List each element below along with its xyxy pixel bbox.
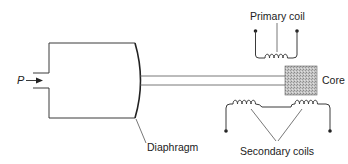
- pressure-label: P: [17, 74, 25, 86]
- primary-coil-label: Primary coil: [250, 10, 305, 22]
- diaphragm-leader-line: [136, 119, 146, 143]
- primary-coil: [254, 29, 299, 58]
- lvdt-pressure-diagram: P Diaphragm Core Primary coil: [0, 0, 348, 164]
- core-label: Core: [322, 74, 345, 86]
- core: [285, 66, 317, 95]
- secondary-coil-right: [291, 100, 332, 133]
- secondary-coils-leader-lines: [251, 109, 302, 141]
- rod: [140, 76, 285, 85]
- secondary-coil-left: [224, 100, 291, 133]
- pressure-arrow-icon: [26, 78, 43, 84]
- diaphragm-label: Diaphragm: [147, 141, 199, 153]
- secondary-terminal-right-icon: [328, 129, 332, 133]
- secondary-coils-label: Secondary coils: [240, 145, 314, 157]
- chamber: [49, 43, 135, 118]
- diaphragm: [135, 43, 141, 118]
